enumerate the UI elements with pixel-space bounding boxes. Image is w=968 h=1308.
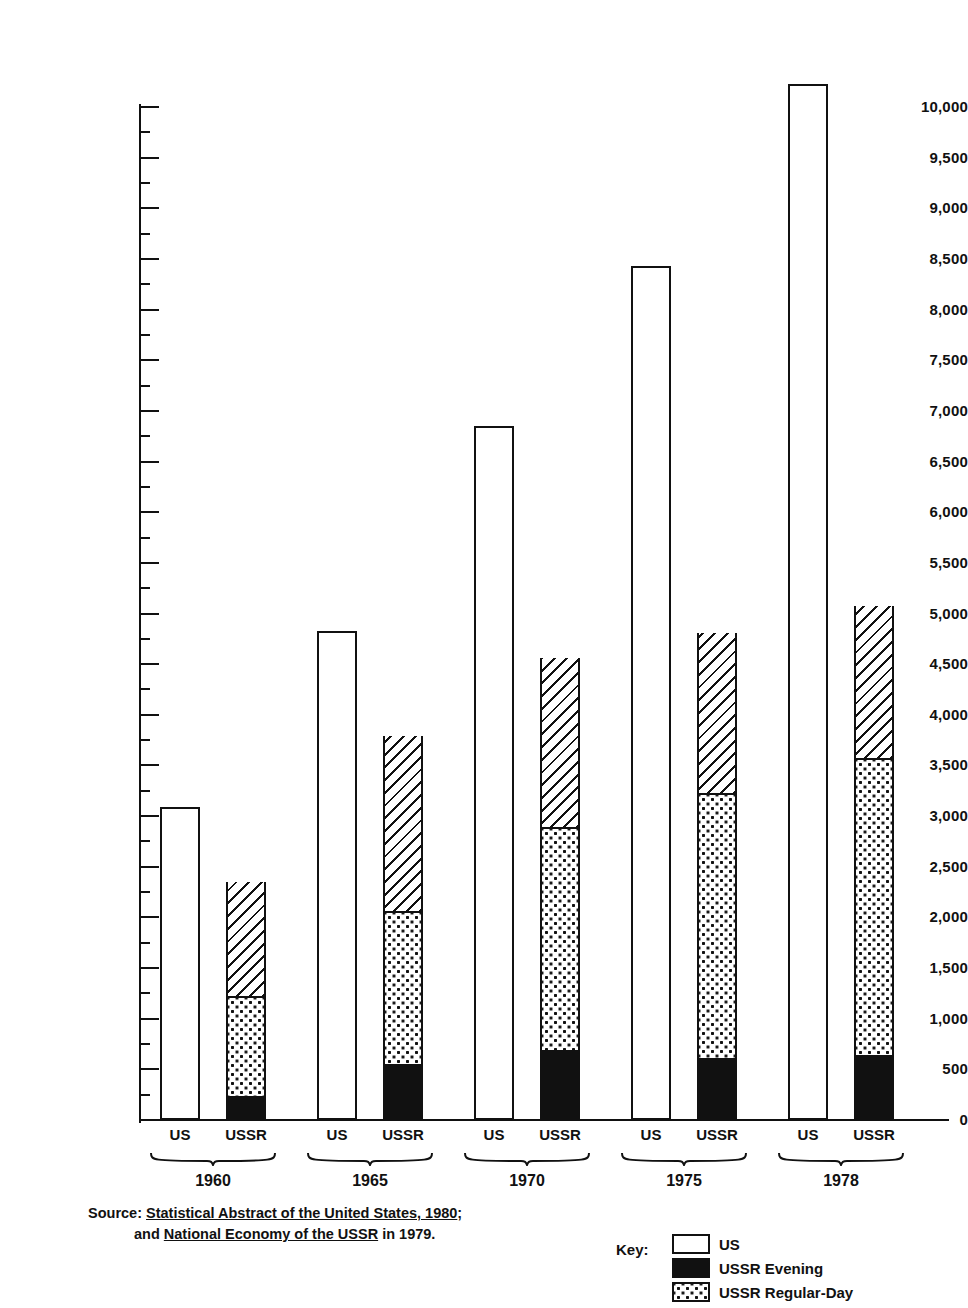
y-tick-label-7000: 7,000 (874, 402, 968, 419)
y-minor-tick (141, 1094, 150, 1096)
y-tick-label-9500: 9,500 (874, 149, 968, 166)
y-minor-tick (141, 486, 150, 488)
bar-us-1965 (317, 631, 357, 1120)
legend-label-2: USSR Regular-Day (719, 1284, 853, 1301)
bar-ussr-1975 (697, 633, 737, 1120)
y-tick-8000 (141, 309, 159, 311)
y-minor-tick (141, 891, 150, 893)
legend-rows: USUSSR EveningUSSR Regular-Day (672, 1232, 853, 1304)
x-label-ussr-1978: USSR (834, 1126, 914, 1143)
source-suffix-2: in 1979. (378, 1226, 435, 1242)
bar-segment-ussr-other-1975 (699, 633, 735, 794)
bar-us-1975 (631, 266, 671, 1120)
legend-label-1: USSR Evening (719, 1260, 823, 1277)
y-minor-tick (141, 1043, 150, 1045)
y-minor-tick (141, 992, 150, 994)
legend-item-ussr-evening: USSR Evening (672, 1256, 853, 1280)
y-tick-4000 (141, 714, 159, 716)
y-minor-tick (141, 688, 150, 690)
y-minor-tick (141, 385, 150, 387)
source-title-2: National Economy of the USSR (164, 1226, 378, 1242)
y-tick-8500 (141, 258, 159, 260)
legend-item-ussr-regular-day: USSR Regular-Day (672, 1280, 853, 1304)
bar-segment-ussr-regular-1970 (542, 827, 578, 1050)
bar-ussr-1960 (226, 882, 266, 1120)
y-minor-tick (141, 942, 150, 944)
y-minor-tick (141, 840, 150, 842)
bar-us-1978 (788, 84, 828, 1120)
source-line-2: and National Economy of the USSR in 1979… (88, 1224, 608, 1245)
x-label-ussr-1970: USSR (520, 1126, 600, 1143)
group-brace-1978 (778, 1152, 904, 1166)
y-tick-9000 (141, 207, 159, 209)
y-minor-tick (141, 182, 150, 184)
y-minor-tick (141, 790, 150, 792)
y-minor-tick (141, 283, 150, 285)
bar-us-1960 (160, 807, 200, 1120)
group-year-1970: 1970 (482, 1172, 572, 1190)
bar-segment-ussr-other-1965 (385, 736, 421, 911)
y-tick-label-5500: 5,500 (874, 554, 968, 571)
bar-segment-ussr-evening-1978 (856, 1055, 892, 1120)
y-tick-0 (141, 1119, 159, 1121)
group-year-1960: 1960 (168, 1172, 258, 1190)
legend-label-0: US (719, 1236, 740, 1253)
group-year-1975: 1975 (639, 1172, 729, 1190)
legend-swatch-plain-icon (672, 1234, 710, 1254)
bar-segment-ussr-other-1978 (856, 606, 892, 758)
y-tick-7500 (141, 359, 159, 361)
y-tick-9500 (141, 157, 159, 159)
y-tick-label-8500: 8,500 (874, 250, 968, 267)
y-tick-6500 (141, 461, 159, 463)
y-tick-500 (141, 1068, 159, 1070)
y-tick-1000 (141, 1018, 159, 1020)
y-minor-tick (141, 537, 150, 539)
y-tick-label-6500: 6,500 (874, 453, 968, 470)
y-tick-2500 (141, 866, 159, 868)
bar-segment-ussr-evening-1960 (228, 1096, 264, 1120)
y-minor-tick (141, 131, 150, 133)
legend-swatch-dash-icon (672, 1258, 710, 1278)
bar-segment-ussr-regular-1978 (856, 758, 892, 1055)
bar-segment-ussr-regular-1975 (699, 793, 735, 1058)
y-tick-1500 (141, 967, 159, 969)
y-tick-6000 (141, 511, 159, 513)
bar-segment-ussr-evening-1965 (385, 1064, 421, 1120)
bar-ussr-1978 (854, 606, 894, 1120)
y-tick-5000 (141, 613, 159, 615)
x-label-ussr-1960: USSR (206, 1126, 286, 1143)
bar-segment-ussr-evening-1970 (542, 1050, 578, 1120)
y-tick-4500 (141, 663, 159, 665)
y-tick-label-8000: 8,000 (874, 301, 968, 318)
legend-key-label: Key: (616, 1241, 649, 1258)
bar-segment-ussr-regular-1965 (385, 911, 421, 1064)
y-minor-tick (141, 334, 150, 336)
group-brace-1960 (150, 1152, 276, 1166)
y-tick-label-6000: 6,000 (874, 503, 968, 520)
x-label-ussr-1975: USSR (677, 1126, 757, 1143)
group-brace-1965 (307, 1152, 433, 1166)
y-tick-7000 (141, 410, 159, 412)
source-line2-prefix: and (134, 1226, 164, 1242)
group-year-1965: 1965 (325, 1172, 415, 1190)
source-title-1: Statistical Abstract of the United State… (146, 1205, 457, 1221)
y-minor-tick (141, 739, 150, 741)
bar-ussr-1970 (540, 658, 580, 1120)
source-note: Source: Statistical Abstract of the Unit… (88, 1203, 608, 1245)
bar-ussr-1965 (383, 736, 423, 1120)
y-minor-tick (141, 233, 150, 235)
y-minor-tick (141, 587, 150, 589)
bar-segment-ussr-evening-1975 (699, 1058, 735, 1120)
legend-item-us: US (672, 1232, 853, 1256)
y-tick-2000 (141, 916, 159, 918)
y-tick-5500 (141, 562, 159, 564)
y-tick-label-10000: 10,000 (874, 98, 968, 115)
bar-segment-ussr-regular-1960 (228, 996, 264, 1095)
y-tick-3500 (141, 764, 159, 766)
bar-chart: 05001,0001,5002,0002,5003,0003,5004,0004… (0, 0, 968, 1308)
source-prefix: Source: (88, 1205, 142, 1221)
y-minor-tick (141, 435, 150, 437)
group-brace-1975 (621, 1152, 747, 1166)
y-tick-10000 (141, 106, 159, 108)
y-minor-tick (141, 638, 150, 640)
